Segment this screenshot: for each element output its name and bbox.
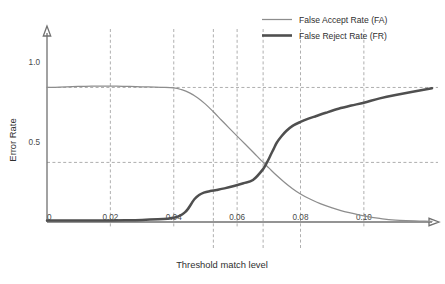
error-rate-chart: 1.0 0.5 0 0.02 0.04 0.06 0.08 0.10 Error…	[0, 0, 445, 284]
chart-canvas: 1.0 0.5 0 0.02 0.04 0.06 0.08 0.10 Error…	[0, 0, 445, 284]
x-tick-label-5: 0.08	[293, 213, 309, 222]
y-tick-label-1: 1.0	[29, 58, 41, 67]
legend-label-false-accept-rate: False Accept Rate (FA)	[299, 15, 387, 25]
x-axis-title: Threshold match level	[176, 259, 268, 270]
legend-label-false-reject-rate: False Reject Rate (FR)	[299, 31, 387, 41]
x-tick-label-4: 0.06	[229, 213, 245, 222]
chart-legend: False Accept Rate (FA) False Reject Rate…	[262, 15, 387, 41]
y-tick-label-2: 0.5	[29, 138, 41, 147]
axes	[43, 26, 439, 226]
series-line-false-accept-rate	[47, 86, 432, 221]
y-axis-title: Error Rate	[7, 118, 18, 161]
series-line-false-reject-rate	[47, 88, 432, 220]
y-tick-labels: 1.0 0.5	[29, 58, 41, 147]
